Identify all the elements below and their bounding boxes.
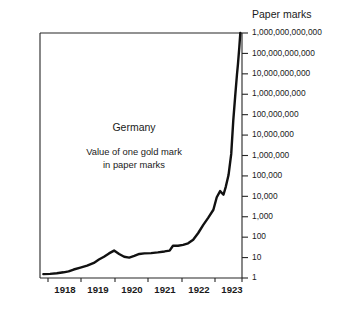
x-axis-ticks: 191819191920192119221923 [48, 278, 243, 295]
y-axis-tick-label: 100,000,000 [252, 109, 299, 119]
y-axis-tick-label: 100 [252, 231, 266, 241]
x-axis-tick-label: 1921 [154, 284, 176, 295]
y-axis-tick-label: 100,000 [252, 170, 283, 180]
chart-subtitle-line1: Value of one gold mark [86, 146, 182, 157]
y-axis-tick-label: 1 [252, 272, 257, 282]
x-axis-tick-label: 1918 [54, 284, 76, 295]
x-axis-tick-label: 1923 [221, 284, 242, 295]
y-axis-title: Paper marks [252, 8, 312, 20]
y-axis-tick-label: 1,000,000 [252, 150, 290, 160]
chart-subtitle-line2: in paper marks [103, 159, 165, 170]
x-axis-tick-label: 1919 [87, 284, 108, 295]
hyperinflation-line-chart: Paper marks 1,000,000,000,000100,000,000… [0, 0, 355, 315]
y-axis-tick-label: 10,000,000,000 [252, 68, 311, 78]
y-axis-tick-label: 1,000,000,000,000 [252, 27, 322, 37]
y-axis-tick-label: 10 [252, 252, 262, 262]
y-axis-tick-label: 10,000 [252, 191, 278, 201]
y-axis-tick-label: 10,000,000 [252, 129, 294, 139]
y-axis-tick-label: 100,000,000,000 [252, 48, 315, 58]
y-axis-ticks: 1,000,000,000,000100,000,000,00010,000,0… [242, 27, 322, 282]
chart-title-annotation: Germany [112, 121, 156, 133]
y-axis-tick-label: 1,000 [252, 211, 273, 221]
chart-container: Paper marks 1,000,000,000,000100,000,000… [0, 0, 355, 315]
x-axis-tick-label: 1920 [121, 284, 142, 295]
x-axis-tick-label: 1922 [188, 284, 209, 295]
y-axis-tick-label: 1,000,000,000 [252, 88, 306, 98]
